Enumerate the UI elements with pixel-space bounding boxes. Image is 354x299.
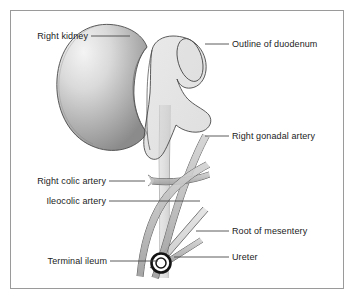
label-right-kidney: Right kidney xyxy=(37,31,88,41)
anatomy-diagram-canvas: Right kidney Outline of duodenum Right g… xyxy=(0,0,354,299)
label-right-gonadal-artery: Right gonadal artery xyxy=(232,131,315,141)
label-root-of-mesentery: Root of mesentery xyxy=(232,226,308,236)
terminal-ileum-ring xyxy=(152,254,171,273)
label-right-colic-artery: Right colic artery xyxy=(37,176,106,186)
label-terminal-ileum: Terminal ileum xyxy=(48,256,107,266)
anatomy-figure: Right kidney Outline of duodenum Right g… xyxy=(0,0,354,299)
right-kidney-shape xyxy=(57,24,147,150)
label-ileocolic-artery: Ileocolic artery xyxy=(46,196,106,206)
label-outline-of-duodenum: Outline of duodenum xyxy=(232,39,317,49)
label-ureter: Ureter xyxy=(232,252,258,262)
